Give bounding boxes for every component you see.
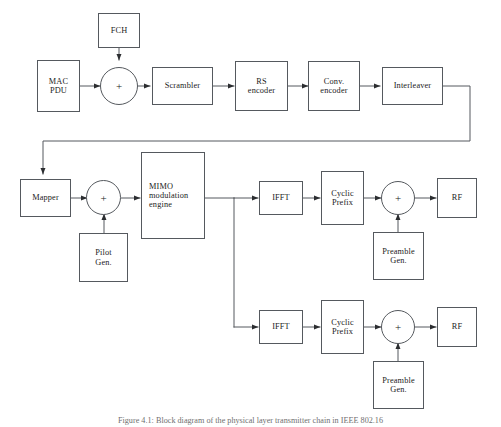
adder-preamble-sum-upper-symbol: +	[395, 192, 401, 204]
block-pilot-gen[interactable]: Pilot Gen.	[79, 233, 128, 282]
block-cyclic-prefix-lower-line1: Cyclic	[330, 318, 355, 327]
block-cyclic-prefix-lower-line2: Prefix	[331, 327, 354, 336]
block-rs-encoder-line1: RS	[255, 77, 267, 86]
block-scrambler[interactable]: Scrambler	[152, 67, 213, 105]
block-mapper[interactable]: Mapper	[20, 179, 71, 217]
block-mimo-modulation-engine[interactable]: MIMO modulation engine	[141, 152, 205, 239]
block-preamble-gen-lower-line1: Preamble	[381, 376, 416, 385]
adder-input-sum[interactable]: +	[100, 67, 138, 105]
block-cyclic-prefix-upper-line2: Prefix	[331, 198, 354, 207]
block-mac-pdu-line2: PDU	[49, 86, 68, 95]
block-mapper-label: Mapper	[31, 193, 60, 202]
block-ifft-lower[interactable]: IFFT	[259, 310, 303, 344]
block-fch-label: FCH	[110, 26, 129, 35]
adder-preamble-sum-lower[interactable]: +	[381, 310, 415, 344]
block-rf-lower[interactable]: RF	[437, 307, 477, 347]
block-scrambler-label: Scrambler	[164, 81, 201, 90]
block-rf-upper-label: RF	[451, 193, 463, 202]
block-rs-encoder[interactable]: RS encoder	[235, 61, 288, 111]
block-conv-encoder[interactable]: Conv. encoder	[308, 61, 360, 111]
block-ifft-lower-label: IFFT	[271, 322, 291, 331]
block-interleaver[interactable]: Interleaver	[382, 67, 443, 105]
block-mac-pdu[interactable]: MAC PDU	[37, 60, 80, 112]
adder-preamble-sum-upper[interactable]: +	[381, 181, 415, 215]
block-rs-encoder-line2: encoder	[247, 86, 276, 95]
block-mimo-line3: engine	[148, 200, 173, 209]
block-cyclic-prefix-upper[interactable]: Cyclic Prefix	[321, 171, 364, 225]
block-preamble-gen-lower-line2: Gen.	[389, 385, 408, 394]
block-mimo-line1: MIMO	[148, 182, 174, 191]
block-rf-lower-label: RF	[451, 322, 463, 331]
figure-caption: Figure 4.1: Block diagram of the physica…	[0, 416, 501, 427]
block-pilot-gen-line1: Pilot	[94, 248, 112, 257]
adder-pilot-sum-symbol: +	[100, 192, 106, 204]
block-fch[interactable]: FCH	[98, 13, 140, 48]
block-preamble-gen-lower[interactable]: Preamble Gen.	[373, 361, 424, 409]
block-cyclic-prefix-lower[interactable]: Cyclic Prefix	[321, 300, 364, 354]
adder-preamble-sum-lower-symbol: +	[395, 321, 401, 333]
figure-canvas: FCH MAC PDU + Scrambler RS encoder Conv.…	[0, 0, 501, 427]
block-conv-encoder-line2: encoder	[319, 86, 348, 95]
block-interleaver-label: Interleaver	[393, 81, 433, 90]
block-preamble-gen-upper-line1: Preamble	[381, 247, 416, 256]
block-pilot-gen-line2: Gen.	[94, 258, 113, 267]
adder-input-sum-symbol: +	[116, 80, 122, 92]
block-mimo-line2: modulation	[148, 191, 189, 200]
block-conv-encoder-line1: Conv.	[323, 77, 345, 86]
block-ifft-upper-label: IFFT	[271, 193, 291, 202]
block-preamble-gen-upper[interactable]: Preamble Gen.	[373, 232, 424, 280]
block-mac-pdu-line1: MAC	[48, 77, 69, 86]
block-cyclic-prefix-upper-line1: Cyclic	[330, 189, 355, 198]
block-rf-upper[interactable]: RF	[437, 178, 477, 218]
adder-pilot-sum[interactable]: +	[86, 180, 121, 215]
block-preamble-gen-upper-line2: Gen.	[389, 256, 408, 265]
block-ifft-upper[interactable]: IFFT	[259, 181, 303, 215]
